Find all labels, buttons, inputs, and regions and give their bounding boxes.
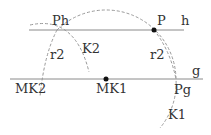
label-P: P	[157, 14, 166, 27]
label-K1: K1	[168, 108, 186, 121]
label-r2-right: r2	[150, 48, 165, 61]
point-P	[152, 28, 157, 33]
label-g: g	[192, 64, 200, 77]
label-h: h	[181, 14, 189, 27]
label-r2-left: r2	[50, 48, 65, 61]
label-MK1: MK1	[96, 82, 127, 95]
label-MK2: MK2	[15, 82, 46, 95]
label-Pg: Pg	[174, 83, 191, 96]
label-Ph: Ph	[52, 14, 69, 27]
label-K2: K2	[82, 42, 100, 55]
geometry-diagram: Ph P h r2 K2 r2 g MK2 MK1 Pg K1	[0, 0, 211, 135]
